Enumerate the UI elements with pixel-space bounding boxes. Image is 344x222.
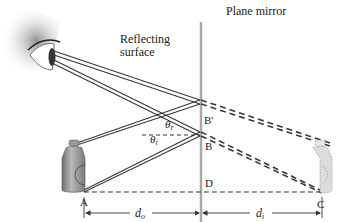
plane-mirror-diagram: Plane mirror Reflecting surface B′ B D A… <box>0 0 344 222</box>
title-label: Plane mirror <box>226 4 286 18</box>
d-i-label: di <box>256 206 264 221</box>
surface-label-1: Reflecting <box>120 32 170 46</box>
point-d: D <box>205 177 213 189</box>
d-o-label: do <box>135 206 145 221</box>
point-c: C <box>317 198 324 210</box>
theta-r-label: θr <box>165 118 174 132</box>
virtual-rays <box>201 100 330 193</box>
object-bottle <box>62 140 85 192</box>
point-b: B <box>205 140 212 152</box>
point-b-prime: B′ <box>204 114 214 126</box>
image-bottle <box>313 140 332 193</box>
distance-markers <box>84 197 322 218</box>
surface-label-2: surface <box>120 45 155 59</box>
eye-icon <box>0 10 60 72</box>
point-a: A <box>80 196 88 208</box>
